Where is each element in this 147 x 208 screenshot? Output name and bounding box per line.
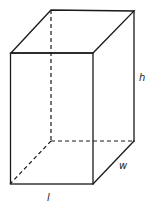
height-label: h bbox=[139, 72, 145, 83]
width-label: w bbox=[119, 160, 128, 171]
hidden-edges bbox=[10, 10, 134, 184]
hidden-left-bottom-edge bbox=[10, 141, 51, 184]
top-face bbox=[11, 10, 134, 53]
front-face bbox=[11, 53, 94, 184]
right-bottom-edge bbox=[93, 141, 134, 184]
length-label: l bbox=[47, 192, 50, 203]
rectangular-prism-diagram: h w l bbox=[0, 0, 147, 208]
visible-edges bbox=[11, 10, 135, 184]
